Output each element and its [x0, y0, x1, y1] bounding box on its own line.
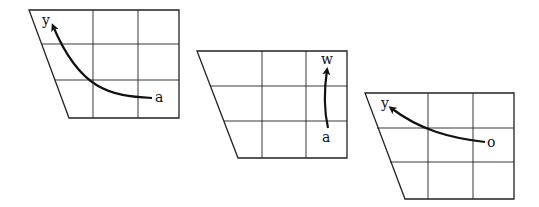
- path-arrow: [325, 70, 328, 128]
- start-label: a: [155, 89, 163, 105]
- start-label: a: [322, 129, 330, 145]
- diagram: y a w a y o: [0, 0, 539, 207]
- end-label: y: [41, 12, 50, 28]
- path-arrow: [391, 108, 485, 142]
- start-label: o: [487, 134, 495, 150]
- grid-panel-1: y a: [29, 10, 179, 118]
- end-label: y: [380, 95, 389, 111]
- path-arrow: [53, 26, 152, 98]
- grid-panel-2: w a: [197, 51, 347, 158]
- grid-panel-3: y o: [365, 93, 514, 199]
- end-label: w: [321, 51, 333, 67]
